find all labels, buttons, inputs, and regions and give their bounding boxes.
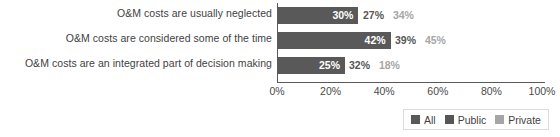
legend-swatch-icon [495, 115, 504, 124]
x-tick-label: 40% [374, 85, 395, 97]
x-axis-line [277, 82, 545, 83]
value-private: 34% [393, 9, 414, 21]
side-values: 39% 45% [395, 34, 446, 47]
side-values: 27% 34% [363, 9, 414, 22]
legend-label: All [424, 114, 436, 126]
plot-area: 30% 27% 34% 42% 39% 45% 25% 32% 18 [277, 3, 545, 82]
bar-value-all: 25% [319, 59, 340, 72]
legend-item-public[interactable]: Public [445, 114, 487, 126]
value-private: 18% [379, 59, 400, 71]
x-tick-label: 0% [269, 85, 284, 97]
category-label: O&M costs are an integrated part of deci… [12, 57, 272, 69]
x-tick-label: 20% [320, 85, 341, 97]
bar-all[interactable]: 25% [278, 57, 345, 74]
category-label: O&M costs are usually neglected [12, 7, 272, 19]
legend-swatch-icon [445, 115, 454, 124]
bar-all[interactable]: 30% [278, 7, 358, 24]
category-label: O&M costs are considered some of the tim… [12, 32, 272, 44]
x-tick-label: 100% [529, 85, 556, 97]
bar-all[interactable]: 42% [278, 32, 391, 49]
bar-value-all: 42% [365, 34, 386, 47]
value-public: 39% [395, 34, 416, 46]
value-public: 27% [363, 9, 384, 21]
legend-label: Public [458, 114, 487, 126]
horizontal-bar-chart: O&M costs are usually neglected O&M cost… [0, 0, 560, 137]
bar-value-all: 30% [332, 9, 353, 22]
legend-item-all[interactable]: All [411, 114, 436, 126]
legend-label: Private [508, 114, 541, 126]
legend-swatch-icon [411, 115, 420, 124]
side-values: 32% 18% [349, 59, 400, 72]
value-private: 45% [425, 34, 446, 46]
chart-legend: All Public Private [403, 109, 549, 130]
x-axis-ticks: 0% 20% 40% 60% 80% 100% [277, 85, 545, 99]
value-public: 32% [349, 59, 370, 71]
x-tick-label: 60% [427, 85, 448, 97]
legend-item-private[interactable]: Private [495, 114, 541, 126]
x-tick-label: 80% [481, 85, 502, 97]
